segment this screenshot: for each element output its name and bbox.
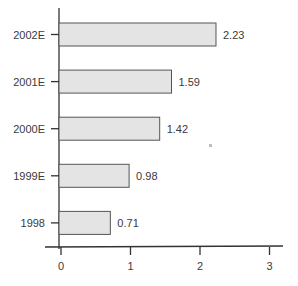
bar-2001e bbox=[59, 70, 172, 93]
y-tick-label: 1998 bbox=[21, 217, 45, 229]
x-ticks-group: 0123 bbox=[58, 247, 273, 272]
bar-2000e bbox=[59, 117, 160, 140]
bar-chart: 2.231.591.420.980.71 0123 2002E2001E2000… bbox=[0, 0, 298, 286]
bar-1999e bbox=[59, 164, 129, 187]
value-label: 1.42 bbox=[167, 123, 188, 135]
y-ticks-group: 2002E2001E2000E1999E1998 bbox=[13, 29, 59, 229]
value-label: 0.98 bbox=[136, 170, 157, 182]
x-tick-label: 3 bbox=[266, 260, 272, 272]
bar-2002e bbox=[59, 23, 216, 46]
y-tick-label: 2001E bbox=[13, 76, 45, 88]
scan-artifact-dot bbox=[209, 144, 212, 147]
bars-group: 2.231.591.420.980.71 bbox=[59, 23, 244, 234]
y-tick-label: 1999E bbox=[13, 170, 45, 182]
value-label: 0.71 bbox=[117, 217, 138, 229]
x-axis-line bbox=[45, 246, 283, 247]
value-label: 1.59 bbox=[179, 76, 200, 88]
x-tick-label: 1 bbox=[127, 260, 133, 272]
y-tick-label: 2000E bbox=[13, 123, 45, 135]
x-tick-label: 2 bbox=[197, 260, 203, 272]
y-tick-label: 2002E bbox=[13, 29, 45, 41]
value-label: 2.23 bbox=[223, 29, 244, 41]
x-tick-label: 0 bbox=[58, 260, 64, 272]
bar-1998 bbox=[59, 211, 110, 234]
